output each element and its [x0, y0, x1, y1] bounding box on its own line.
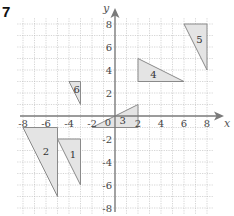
y-axis-label: y	[102, 2, 110, 15]
y-tick-label: 2	[106, 88, 112, 99]
x-tick-label: 8	[204, 118, 210, 129]
y-tick-label: 4	[106, 65, 112, 76]
y-tick-label: 6	[106, 42, 112, 53]
triangle-shape	[184, 24, 207, 70]
y-tick-label: -4	[102, 157, 112, 168]
y-tick-label: -6	[102, 180, 112, 191]
x-tick-label: -2	[87, 118, 97, 129]
x-tick-label: -4	[64, 118, 74, 129]
y-tick-label: -8	[102, 203, 112, 214]
x-tick-label: -8	[18, 118, 28, 129]
coordinate-plane: 123456 x y 0 -8-6-4-224688642-2-4-6-8	[0, 0, 234, 216]
x-tick-label: 4	[158, 118, 164, 129]
origin-label: 0	[105, 117, 111, 128]
triangle-5: 5	[184, 24, 207, 70]
triangle-2: 2	[23, 128, 58, 197]
x-tick-label: 2	[135, 118, 141, 129]
triangle-label: 2	[43, 146, 49, 157]
y-tick-label: -2	[102, 134, 112, 145]
x-tick-label: 6	[181, 118, 187, 129]
triangle-label: 5	[196, 34, 202, 45]
y-tick-label: 8	[106, 19, 112, 30]
x-tick-label: -6	[41, 118, 51, 129]
triangle-shape	[23, 128, 58, 197]
x-axis-label: x	[224, 117, 231, 130]
triangle-label: 4	[150, 69, 156, 80]
triangle-label: 1	[70, 149, 76, 160]
triangle-label: 6	[73, 84, 79, 95]
